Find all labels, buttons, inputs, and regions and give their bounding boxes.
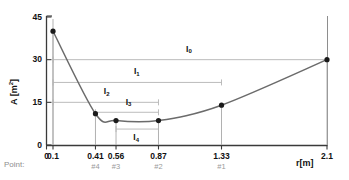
data-point-marker-2[interactable] — [113, 118, 118, 123]
data-point-marker-0[interactable] — [50, 29, 55, 34]
point-row-caption: Point: — [4, 160, 24, 169]
x-tick-label-0.87: 0.87 — [138, 151, 178, 161]
annotation-label-I4: I4 — [133, 132, 139, 142]
annotation-label-I3: I3 — [126, 97, 132, 107]
data-point-marker-3[interactable] — [156, 118, 161, 123]
point-label-n2: #2 — [138, 162, 178, 171]
annotation-label-I0: I0 — [186, 44, 192, 54]
y-tick-label-15: 15 — [20, 97, 42, 107]
chart-figure: 015304500.10.410.560.871.332.1#4#3#2#1I0… — [0, 0, 349, 180]
y-tick-label-0: 0 — [20, 140, 42, 150]
data-point-marker-5[interactable] — [324, 57, 329, 62]
x-tick-label-0.1: 0.1 — [33, 151, 73, 161]
y-tick-label-45: 45 — [20, 12, 42, 22]
annotation-label-I2: I2 — [104, 86, 110, 96]
data-point-marker-4[interactable] — [219, 103, 224, 108]
x-tick-label-1.33: 1.33 — [202, 151, 242, 161]
y-axis-title: A [m2] — [8, 79, 19, 105]
point-label-n1: #1 — [202, 162, 242, 171]
point-label-n3: #3 — [96, 162, 136, 171]
data-point-marker-1[interactable] — [93, 111, 98, 116]
annotation-label-I1: I1 — [134, 66, 140, 76]
y-tick-label-30: 30 — [20, 54, 42, 64]
x-axis-title: r[m] — [296, 158, 314, 168]
x-tick-label-0.56: 0.56 — [96, 151, 136, 161]
